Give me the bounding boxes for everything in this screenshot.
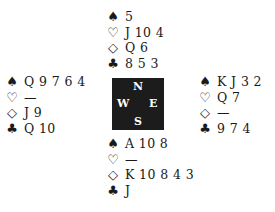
south-clubs: J [125, 183, 130, 199]
north-hand: ♠ 5 ♡ J 10 4 ◇ Q 6 ♣ 8 5 3 [106, 9, 164, 71]
south-hearts: — [125, 152, 138, 168]
south-spades-row: ♠ A 10 8 [106, 136, 194, 152]
heart-icon: ♡ [106, 25, 120, 41]
south-spades: A 10 8 [125, 136, 168, 152]
club-icon: ♣ [106, 183, 120, 199]
north-hearts-row: ♡ J 10 4 [106, 25, 164, 41]
east-clubs: 9 7 4 [217, 121, 251, 137]
spade-icon: ♠ [106, 9, 120, 25]
heart-icon: ♡ [198, 90, 212, 106]
compass-north-label: N [133, 80, 143, 93]
heart-icon: ♡ [5, 90, 19, 106]
club-icon: ♣ [198, 121, 212, 137]
north-hearts: J 10 4 [125, 25, 164, 41]
west-diamonds-row: ◇ J 9 [5, 105, 86, 121]
west-spades: Q 9 7 6 4 [24, 74, 86, 90]
east-diamonds: — [217, 105, 230, 121]
north-spades-row: ♠ 5 [106, 9, 164, 25]
east-diamonds-row: ◇ — [198, 105, 262, 121]
compass-south-label: S [134, 115, 142, 128]
spade-icon: ♠ [198, 74, 212, 90]
north-diamonds-row: ◇ Q 6 [106, 40, 164, 56]
south-hand: ♠ A 10 8 ♡ — ◇ K 10 8 4 3 ♣ J [106, 136, 194, 198]
diamond-icon: ◇ [106, 167, 120, 183]
west-hand: ♠ Q 9 7 6 4 ♡ — ◇ J 9 ♣ Q 10 [5, 74, 86, 136]
south-hearts-row: ♡ — [106, 152, 194, 168]
north-spades: 5 [125, 9, 133, 25]
north-clubs: 8 5 3 [125, 56, 159, 72]
diamond-icon: ◇ [5, 105, 19, 121]
spade-icon: ♠ [5, 74, 19, 90]
east-hearts: Q 7 [217, 90, 240, 106]
east-spades-row: ♠ K J 3 2 [198, 74, 262, 90]
south-diamonds-row: ◇ K 10 8 4 3 [106, 167, 194, 183]
compass-box: N W E S [112, 78, 164, 130]
compass-east-label: E [149, 97, 157, 110]
north-diamonds: Q 6 [125, 40, 148, 56]
diamond-icon: ◇ [198, 105, 212, 121]
west-spades-row: ♠ Q 9 7 6 4 [5, 74, 86, 90]
west-clubs: Q 10 [24, 121, 56, 137]
east-hearts-row: ♡ Q 7 [198, 90, 262, 106]
east-spades: K J 3 2 [217, 74, 262, 90]
heart-icon: ♡ [106, 152, 120, 168]
spade-icon: ♠ [106, 136, 120, 152]
west-hearts: — [24, 90, 37, 106]
west-clubs-row: ♣ Q 10 [5, 121, 86, 137]
west-diamonds: J 9 [24, 105, 42, 121]
south-clubs-row: ♣ J [106, 183, 194, 199]
club-icon: ♣ [5, 121, 19, 137]
club-icon: ♣ [106, 56, 120, 72]
east-clubs-row: ♣ 9 7 4 [198, 121, 262, 137]
diamond-icon: ◇ [106, 40, 120, 56]
east-hand: ♠ K J 3 2 ♡ Q 7 ◇ — ♣ 9 7 4 [198, 74, 262, 136]
west-hearts-row: ♡ — [5, 90, 86, 106]
compass-west-label: W [117, 97, 129, 110]
north-clubs-row: ♣ 8 5 3 [106, 56, 164, 72]
south-diamonds: K 10 8 4 3 [125, 167, 194, 183]
